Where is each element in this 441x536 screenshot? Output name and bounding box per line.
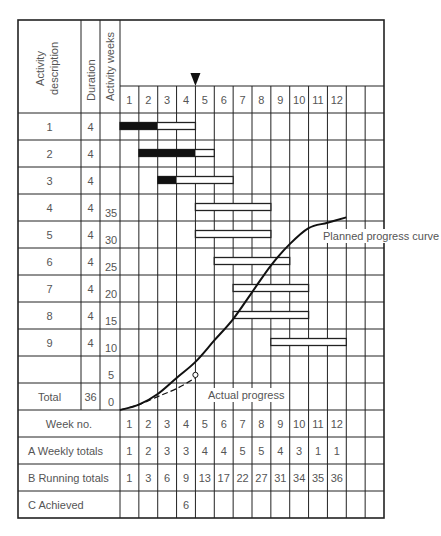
actual-progress-point (193, 372, 198, 377)
week-header-5: 5 (202, 94, 208, 106)
footer-cell: 4 (183, 418, 189, 430)
activity-bar (195, 231, 270, 238)
footer-cell: 7 (240, 418, 246, 430)
total-duration: 36 (84, 391, 96, 403)
activity-duration: 4 (87, 229, 93, 241)
week-header-11: 11 (312, 94, 323, 106)
activity-bar (233, 312, 308, 319)
footer-cell: 3 (183, 445, 189, 457)
activity-bar (271, 339, 346, 346)
week-header-3: 3 (164, 94, 170, 106)
footer-cell: 6 (183, 499, 189, 511)
footer-cell: 12 (331, 418, 343, 430)
week-header-6: 6 (221, 94, 227, 106)
footer-row-label: A Weekly totals (28, 445, 103, 457)
table-labels: ActivitydescriptionDurationActivity week… (28, 31, 343, 510)
footer-cell: 3 (145, 472, 151, 484)
activity-duration: 4 (87, 283, 93, 295)
footer-cell: 1 (126, 445, 132, 457)
activity-id: 5 (46, 229, 52, 241)
footer-cell: 4 (221, 445, 227, 457)
footer-cell: 22 (236, 472, 248, 484)
week-header-10: 10 (293, 94, 305, 106)
activity-bar-completed (139, 150, 196, 157)
progress-chart: ActivitydescriptionDurationActivity week… (0, 0, 441, 536)
footer-cell: 1 (126, 472, 132, 484)
footer-cell: 3 (164, 445, 170, 457)
footer-cell: 2 (145, 418, 151, 430)
activity-id: 6 (46, 256, 52, 268)
y-axis-tick-5: 5 (108, 369, 114, 381)
activity-bar-completed (120, 123, 158, 130)
footer-cell: 1 (315, 445, 321, 457)
footer-cell: 35 (312, 472, 324, 484)
activity-bar (233, 285, 308, 292)
footer-cell: 5 (240, 445, 246, 457)
planned-progress-label: Planned progress curve (323, 230, 439, 242)
y-axis-tick-15: 15 (105, 315, 117, 327)
activity-id: 2 (46, 148, 52, 160)
footer-cell: 6 (164, 472, 170, 484)
header-duration: Duration (85, 59, 97, 101)
activity-id: 4 (46, 202, 52, 214)
footer-cell: 5 (258, 445, 264, 457)
header-activity-description-2: description (48, 42, 60, 95)
footer-cell: 4 (277, 445, 283, 457)
activity-duration: 4 (87, 337, 93, 349)
footer-cell: 34 (293, 472, 305, 484)
y-axis-tick-35: 35 (105, 207, 117, 219)
activity-duration: 4 (87, 175, 93, 187)
activity-id: 7 (46, 283, 52, 295)
footer-cell: 3 (296, 445, 302, 457)
footer-row-label: B Running totals (28, 472, 109, 484)
footer-cell: 17 (218, 472, 230, 484)
week-header-2: 2 (145, 94, 151, 106)
header-activity-weeks: Activity weeks (104, 31, 116, 101)
footer-cell: 13 (199, 472, 211, 484)
week-header-12: 12 (331, 94, 343, 106)
y-axis-tick-20: 20 (105, 288, 117, 300)
activity-duration: 4 (87, 256, 93, 268)
actual-progress-label: Actual progress (208, 389, 285, 401)
week-header-4: 4 (183, 94, 189, 106)
footer-cell: 2 (145, 445, 151, 457)
week-header-9: 9 (277, 94, 283, 106)
footer-cell: 36 (331, 472, 343, 484)
activity-duration: 4 (87, 202, 93, 214)
footer-cell: 11 (312, 418, 323, 430)
footer-row-label: C Achieved (28, 499, 84, 511)
activity-duration: 4 (87, 121, 93, 133)
week-header-8: 8 (258, 94, 264, 106)
y-axis-tick-0: 0 (108, 396, 114, 408)
activity-id: 9 (46, 337, 52, 349)
footer-cell: 10 (293, 418, 305, 430)
activity-duration: 4 (87, 310, 93, 322)
footer-cell: 6 (221, 418, 227, 430)
footer-cell: 5 (202, 418, 208, 430)
y-axis-tick-30: 30 (105, 234, 117, 246)
activity-bar (214, 258, 289, 265)
activity-duration: 4 (87, 148, 93, 160)
footer-cell: 31 (274, 472, 286, 484)
week-header-1: 1 (126, 94, 132, 106)
activity-id: 1 (46, 121, 52, 133)
activity-bar-completed (158, 177, 177, 184)
footer-cell: 8 (258, 418, 264, 430)
header-activity-description: Activity (34, 51, 46, 86)
current-week-marker-icon (190, 73, 200, 86)
y-axis-tick-10: 10 (105, 342, 117, 354)
activity-bar (195, 204, 270, 211)
activity-id: 3 (46, 175, 52, 187)
footer-cell: 27 (255, 472, 267, 484)
activity-id: 8 (46, 310, 52, 322)
footer-cell: 9 (277, 418, 283, 430)
footer-cell: 1 (126, 418, 132, 430)
footer-cell: 3 (164, 418, 170, 430)
total-label: Total (38, 391, 61, 403)
y-axis-tick-25: 25 (105, 261, 117, 273)
footer-cell: 9 (183, 472, 189, 484)
week-header-7: 7 (240, 94, 246, 106)
footer-cell: 4 (202, 445, 208, 457)
footer-row-label: Week no. (46, 418, 92, 430)
footer-cell: 1 (334, 445, 340, 457)
